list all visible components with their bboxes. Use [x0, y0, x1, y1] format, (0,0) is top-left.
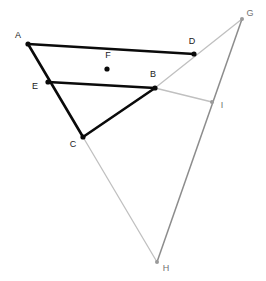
vertex-label-B: B [150, 69, 156, 79]
vertex-point-A [25, 41, 30, 46]
point-layer [25, 17, 244, 264]
vertex-point-F [104, 66, 109, 71]
vertex-label-G: G [246, 8, 253, 18]
vertex-label-H: H [163, 263, 170, 273]
segment-A-D [28, 44, 194, 54]
vertex-point-D [191, 51, 196, 56]
vertex-point-I [210, 100, 214, 104]
vertex-point-G [240, 17, 244, 21]
segment-C-H [83, 137, 157, 262]
geometry-canvas: ABCDEFGHI [0, 0, 266, 281]
vertex-label-C: C [70, 139, 77, 149]
vertex-point-E [45, 79, 50, 84]
vertex-point-B [152, 85, 157, 90]
geometry-figure: ABCDEFGHI [0, 0, 266, 281]
label-layer: ABCDEFGHI [15, 8, 254, 273]
segment-B-C [83, 88, 155, 137]
segment-G-H [157, 19, 242, 262]
vertex-point-H [155, 260, 159, 264]
vertex-label-F: F [105, 50, 111, 60]
vertex-point-C [80, 134, 85, 139]
vertex-label-I: I [221, 100, 224, 110]
segment-B-I [155, 88, 212, 102]
segment-layer [28, 19, 242, 262]
vertex-label-E: E [32, 81, 38, 91]
vertex-label-A: A [15, 30, 21, 40]
vertex-label-D: D [189, 36, 196, 46]
segment-E-B [48, 82, 155, 88]
